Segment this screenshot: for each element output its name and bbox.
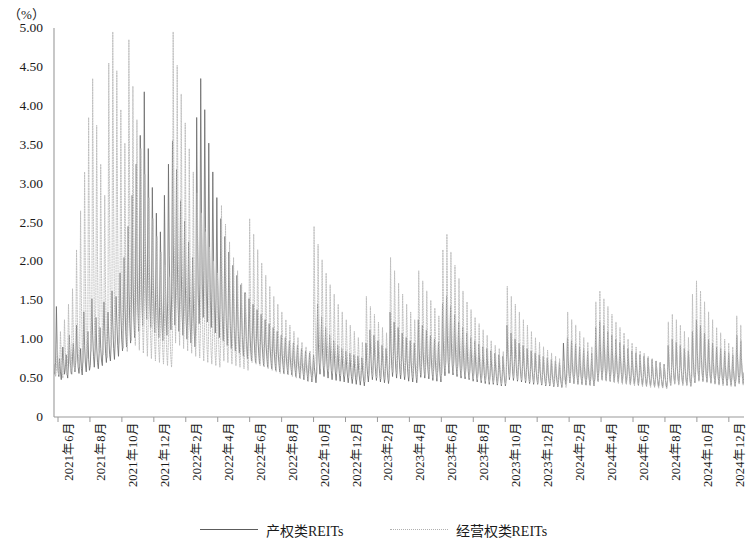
x-axis-tick-3: 2021年12月	[154, 422, 173, 487]
y-axis-tick-labels: 00.501.001.502.002.503.003.504.004.505.0…	[0, 0, 49, 430]
x-axis-tick-1: 2021年8月	[90, 422, 109, 481]
y-axis-tick-3: 1.50	[19, 292, 43, 308]
legend-item-1[interactable]: 经营权类REITs	[390, 520, 548, 540]
y-axis-tick-4: 2.00	[19, 253, 43, 269]
x-axis-tick-14: 2023年10月	[505, 422, 524, 487]
y-axis-tick-5: 2.50	[19, 215, 43, 231]
x-axis-tick-2: 2021年10月	[122, 422, 141, 487]
legend-swatch-dotted-icon	[390, 525, 448, 535]
x-axis-tick-15: 2023年12月	[537, 422, 556, 487]
x-axis-tick-17: 2024年4月	[601, 422, 620, 481]
x-axis-tick-5: 2022年4月	[218, 422, 237, 481]
x-axis-tick-8: 2022年10月	[314, 422, 333, 487]
series-line-0	[54, 79, 744, 388]
legend-item-0[interactable]: 产权类REITs	[200, 520, 344, 540]
y-axis-tick-10: 5.00	[19, 20, 43, 36]
x-axis-tick-9: 2022年12月	[346, 422, 365, 487]
y-axis-tick-9: 4.50	[19, 59, 43, 75]
x-axis-tick-6: 2022年6月	[250, 422, 269, 481]
legend-label-0: 产权类REITs	[266, 520, 344, 540]
legend-swatch-solid-icon	[200, 525, 258, 535]
x-axis-tick-7: 2022年8月	[282, 422, 301, 481]
x-axis-tick-20: 2024年10月	[697, 422, 716, 487]
x-axis-tick-10: 2023年2月	[377, 422, 396, 481]
plot-area	[54, 28, 744, 417]
y-axis-tick-0: 0	[36, 409, 43, 425]
reits-volatility-chart: （%） 00.501.001.502.002.503.003.504.004.5…	[0, 0, 747, 544]
x-axis-tick-21: 2024年12月	[729, 422, 747, 487]
series-line-1	[54, 32, 744, 389]
series-canvas	[54, 28, 744, 417]
x-axis-tick-18: 2024年6月	[633, 422, 652, 481]
legend-label-1: 经营权类REITs	[456, 520, 548, 540]
y-axis-tick-1: 0.50	[19, 370, 43, 386]
x-axis-tick-11: 2023年4月	[409, 422, 428, 481]
x-axis-tick-16: 2024年2月	[569, 422, 588, 481]
x-axis-tick-12: 2023年6月	[441, 422, 460, 481]
x-axis-tick-13: 2023年8月	[473, 422, 492, 481]
y-axis-tick-7: 3.50	[19, 137, 43, 153]
x-axis-tick-labels: 2021年6月2021年8月2021年10月2021年12月2022年2月202…	[54, 422, 744, 517]
y-axis-tick-6: 3.00	[19, 176, 43, 192]
y-axis-tick-2: 1.00	[19, 331, 43, 347]
x-axis-tick-19: 2024年8月	[665, 422, 684, 481]
y-axis-tick-8: 4.00	[19, 98, 43, 114]
x-axis-tick-4: 2022年2月	[186, 422, 205, 481]
chart-legend: 产权类REITs经营权类REITs	[0, 520, 747, 540]
x-axis-tick-0: 2021年6月	[58, 422, 77, 481]
